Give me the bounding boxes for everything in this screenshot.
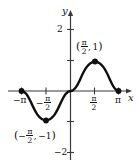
- fraction-pi-over-2: π2: [26, 128, 33, 145]
- fraction-denominator: 2: [27, 136, 34, 144]
- min-point-annotation: (−π2,−1): [14, 128, 56, 145]
- sine-graph-figure: y x 2 −2 −π −π2 π2 π (π2,1) (−π2,−1): [0, 0, 138, 167]
- fraction-numerator: π: [81, 39, 88, 48]
- fraction-pi-over-2: π2: [90, 95, 97, 112]
- point-min: [43, 118, 49, 124]
- comma: ,: [88, 42, 91, 52]
- fraction-numerator: π: [44, 95, 51, 104]
- close-paren: ): [98, 40, 102, 53]
- close-paren: ): [51, 129, 55, 142]
- y-value: −1: [38, 131, 51, 141]
- fraction-denominator: 2: [90, 103, 97, 111]
- y-axis: [68, 10, 73, 160]
- open-paren: (: [76, 40, 80, 53]
- y-axis-label: y: [62, 6, 68, 16]
- open-paren: (: [14, 129, 18, 142]
- y-tick-label-neg2: −2: [54, 148, 67, 157]
- x-tick-label-neg-pi: −π: [13, 96, 26, 105]
- point-pi: [116, 88, 122, 94]
- x-tick-label-neg-pi-over-2: −π2: [36, 95, 51, 112]
- y-tick-label-2: 2: [57, 25, 63, 34]
- comma: ,: [34, 131, 37, 141]
- point-neg-pi: [19, 88, 25, 94]
- fraction-numerator: π: [26, 128, 33, 137]
- minus-sign: −: [18, 131, 26, 141]
- max-point-annotation: (π2,1): [76, 39, 102, 56]
- x-tick-label-pi-over-2: π2: [90, 95, 98, 112]
- minus-sign: −: [36, 98, 44, 108]
- fraction-pi-over-2: π2: [81, 39, 88, 56]
- x-tick-label-pi: π: [115, 96, 121, 105]
- fraction-denominator: 2: [44, 103, 51, 111]
- fraction-denominator: 2: [81, 47, 88, 55]
- x-axis-label: x: [128, 93, 134, 103]
- fraction-pi-over-2: π2: [44, 95, 51, 112]
- point-max: [92, 59, 98, 65]
- fraction-numerator: π: [90, 95, 97, 104]
